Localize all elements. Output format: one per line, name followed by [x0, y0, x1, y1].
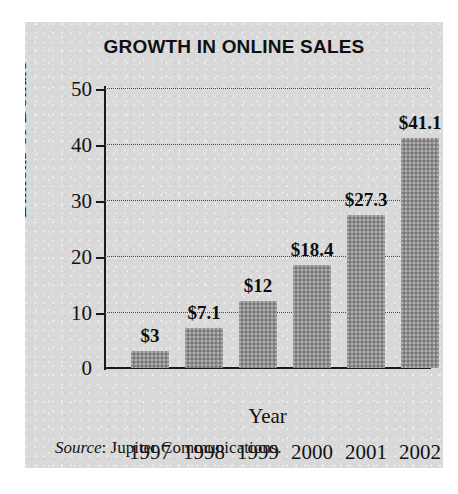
tick-mark-20: [96, 257, 105, 259]
chart-title: GROWTH IN ONLINE SALES: [25, 36, 443, 58]
x-tick-label-2000: 2000: [291, 440, 333, 465]
y-tick-label-50: 50: [71, 77, 92, 102]
x-tick-label-2002: 2002: [399, 440, 441, 465]
bar-2000[interactable]: $18.4: [293, 265, 331, 368]
bar-value-1997: $3: [141, 325, 160, 347]
plot-area: 50 40 30 20 10 0 $3 $7.1 $12: [105, 88, 430, 368]
source-note: Source: Jupiter Communications.: [55, 438, 282, 458]
y-axis-title: Billions of Dollars: [25, 62, 32, 218]
x-tick-label-2001: 2001: [345, 440, 387, 465]
source-text: Jupiter Communications.: [111, 438, 282, 457]
tick-mark-30: [96, 201, 105, 203]
bar-1997[interactable]: $3: [131, 351, 169, 368]
y-tick-label-40: 40: [71, 133, 92, 158]
bar-value-2002: $41.1: [399, 112, 442, 134]
y-tick-label-0: 0: [82, 356, 93, 381]
source-separator: :: [102, 438, 111, 457]
y-tick-label-20: 20: [71, 245, 92, 270]
tick-mark-10: [96, 313, 105, 315]
bar-value-1999: $12: [244, 275, 273, 297]
gridline-50: 50: [105, 88, 430, 89]
bar-2001[interactable]: $27.3: [347, 215, 385, 368]
tick-mark-40: [96, 145, 105, 147]
gridline-40: 40: [105, 144, 430, 145]
bar-value-1998: $7.1: [187, 302, 220, 324]
y-tick-label-10: 10: [71, 301, 92, 326]
x-axis-title: Year: [105, 404, 430, 429]
y-tick-label-30: 30: [71, 189, 92, 214]
bar-2002[interactable]: $41.1: [401, 138, 439, 368]
tick-mark-50: [96, 89, 105, 91]
chart-figure: GROWTH IN ONLINE SALES Billions of Dolla…: [25, 22, 443, 468]
bar-1998[interactable]: $7.1: [185, 328, 223, 368]
bar-1999[interactable]: $12: [239, 301, 277, 368]
bar-value-2000: $18.4: [291, 239, 334, 261]
source-label: Source: [55, 438, 102, 457]
bar-value-2001: $27.3: [345, 189, 388, 211]
